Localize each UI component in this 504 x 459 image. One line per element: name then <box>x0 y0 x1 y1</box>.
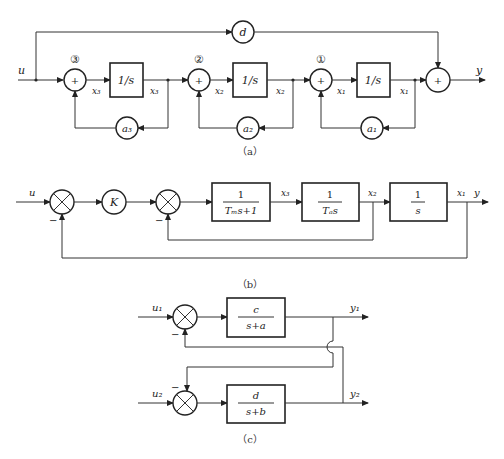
block3-denominator: s <box>415 205 420 216</box>
block2-numerator: d <box>253 390 259 401</box>
signal-label-x3-out: x₃ <box>150 86 159 96</box>
minus-sign: − <box>155 215 163 226</box>
input-label-u2: u₂ <box>152 388 162 399</box>
gain-k-label: K <box>109 196 119 209</box>
integrator-label: 1/s <box>242 74 259 87</box>
sum-sign: + <box>195 75 203 86</box>
integrator-label: 1/s <box>118 74 135 87</box>
input-label-u1: u₁ <box>152 302 162 313</box>
minus-sign: − <box>49 215 57 226</box>
signal-label-x1-in: x₁ <box>337 86 346 96</box>
feedback-gain-a3-label: a₃ <box>122 123 132 134</box>
figure-c: u₁ − c s+a y₁ u₂ − d s+b y₂ （c） <box>138 298 368 445</box>
feedback-gain-a2-label: a₂ <box>243 123 253 134</box>
minus-sign: − <box>171 382 179 393</box>
block1-denominator: s+a <box>246 320 266 331</box>
minus-sign: − <box>171 329 179 340</box>
output-label-y: y <box>473 187 480 198</box>
block1-denominator: Tₘs+1 <box>225 205 258 216</box>
signal-label-x2-out: x₂ <box>276 86 285 96</box>
figure-a: u d ③ + x₃ 1/s x₃ a₃ ② + x₂ 1/s x₂ a <box>18 21 485 157</box>
output-label-y2: y₂ <box>349 388 360 399</box>
block3-numerator: 1 <box>415 189 421 200</box>
sum-sign: + <box>317 75 325 86</box>
caption-a: （a） <box>237 146 263 157</box>
signal-label-x2-in: x₂ <box>215 86 224 96</box>
block2-denominator: s+b <box>246 406 266 417</box>
signal-label-x1: x₁ <box>457 188 466 198</box>
block2-denominator: Tₐs <box>322 205 338 216</box>
stage-label-3: ③ <box>70 53 80 66</box>
feedback-gain-a1-label: a₁ <box>367 123 377 134</box>
output-label-y: y <box>475 64 483 77</box>
gain-d-label: d <box>239 26 246 39</box>
input-label-u: u <box>29 187 35 198</box>
output-label-y1: y₁ <box>349 302 360 313</box>
figure-b: u − K − 1 Tₘs+1 x₃ 1 Tₐs x₂ 1 <box>16 183 488 290</box>
signal-label-x2: x₂ <box>368 188 377 198</box>
sum-sign: + <box>434 75 442 86</box>
stage-label-1: ① <box>316 53 326 66</box>
integrator-label: 1/s <box>365 74 382 87</box>
signal-label-x3: x₃ <box>281 188 290 198</box>
signal-label-x1-out: x₁ <box>400 86 409 96</box>
block2-numerator: 1 <box>327 189 333 200</box>
signal-label-x3-in: x₃ <box>92 86 101 96</box>
sum-sign: + <box>71 75 79 86</box>
block1-numerator: c <box>253 304 259 315</box>
input-label-u: u <box>18 64 25 77</box>
block-diagrams: u d ③ + x₃ 1/s x₃ a₃ ② + x₂ 1/s x₂ a <box>0 0 504 459</box>
caption-c: （c） <box>237 434 263 445</box>
stage-label-2: ② <box>194 53 204 66</box>
block1-numerator: 1 <box>238 189 244 200</box>
caption-b: （b） <box>237 279 263 290</box>
feedback-line-1-return <box>321 91 361 128</box>
feedforward-to-output-line <box>254 32 438 68</box>
feedback-line-2-return <box>199 91 237 128</box>
